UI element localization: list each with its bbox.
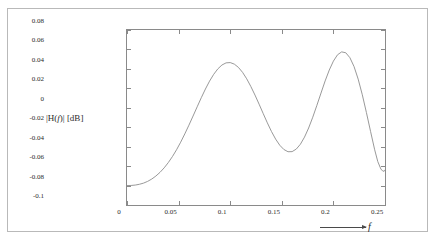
y-tick-mark (127, 127, 131, 128)
figure-container: |H(f)| [dB] f 0.080.060.040.020-0.02-0.0… (0, 0, 437, 240)
plot-frame (126, 29, 386, 206)
y-tick-mark-right (381, 88, 385, 89)
x-tick-mark-top (333, 30, 334, 34)
y-tick-label: 0.06 (32, 37, 44, 44)
x-axis-title: f (320, 221, 371, 232)
y-tick-label: -0.06 (29, 154, 44, 161)
y-tick-mark (127, 49, 131, 50)
figure-outer-border: |H(f)| [dB] f 0.080.060.040.020-0.02-0.0… (7, 8, 428, 232)
y-tick-label: 0.02 (32, 76, 44, 83)
x-tick-mark-top (127, 30, 128, 34)
y-tick-mark-right (381, 186, 385, 187)
x-tick-mark-top (282, 30, 283, 34)
y-axis-title-prefix: |H( (46, 113, 57, 123)
y-tick-label: -0.1 (33, 193, 44, 200)
y-tick-label: -0.08 (29, 174, 44, 181)
x-tick-mark (179, 201, 180, 205)
y-tick-mark (127, 69, 131, 70)
x-tick-mark-top (385, 30, 386, 34)
x-tick-label: 0.1 (209, 209, 235, 216)
y-axis-title: |H(f)| [dB] (46, 113, 83, 123)
y-tick-mark-right (381, 166, 385, 167)
plot-area (127, 30, 385, 205)
x-tick-mark (230, 201, 231, 205)
y-tick-mark (127, 166, 131, 167)
y-axis-title-suffix: )| [dB] (60, 113, 84, 123)
x-tick-mark (385, 201, 386, 205)
x-axis-title-symbol: f (368, 221, 371, 232)
y-tick-mark (127, 108, 131, 109)
y-tick-mark-right (381, 147, 385, 148)
arrow-right-icon (320, 227, 366, 228)
y-tick-mark-right (381, 69, 385, 70)
y-tick-mark (127, 147, 131, 148)
x-tick-mark-top (230, 30, 231, 34)
y-tick-mark (127, 205, 131, 206)
x-tick-label: 0.15 (261, 209, 287, 216)
x-tick-mark (127, 201, 128, 205)
y-tick-mark-right (381, 127, 385, 128)
x-tick-label: 0.05 (158, 209, 184, 216)
response-curve (127, 30, 385, 205)
x-tick-mark (282, 201, 283, 205)
x-tick-label: 0.25 (364, 209, 390, 216)
y-tick-mark (127, 88, 131, 89)
y-tick-label: -0.04 (29, 135, 44, 142)
x-tick-label: 0 (106, 209, 132, 216)
y-tick-mark-right (381, 49, 385, 50)
y-tick-label: 0.08 (32, 18, 44, 25)
y-tick-label: 0 (41, 96, 45, 103)
x-tick-label: 0.2 (312, 209, 338, 216)
y-tick-mark-right (381, 108, 385, 109)
x-tick-mark-top (179, 30, 180, 34)
y-tick-mark-right (381, 205, 385, 206)
y-tick-label: -0.02 (29, 115, 44, 122)
y-tick-mark (127, 186, 131, 187)
x-tick-mark (333, 201, 334, 205)
y-tick-label: 0.04 (32, 57, 44, 64)
